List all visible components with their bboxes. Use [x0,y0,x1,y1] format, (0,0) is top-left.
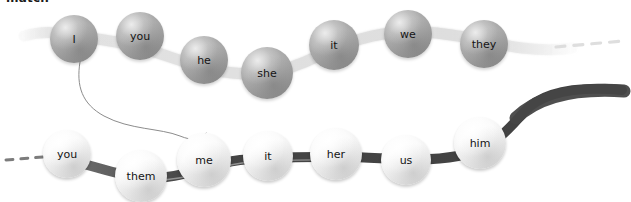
bubble-label: it [264,150,271,161]
bubble-label: he [197,54,211,65]
bubble-subject-you[interactable]: you [116,12,164,60]
bubble-object-you[interactable]: you [43,130,91,178]
bubble-label: you [130,30,150,41]
bubble-subject-we[interactable]: we [384,10,432,58]
bubble-label: you [57,148,77,159]
bubble-label: we [400,28,416,39]
bubble-object-her[interactable]: her [310,128,362,180]
object-ribbon-flare [516,90,624,118]
bubble-label: she [257,67,276,78]
page-title: match [6,0,49,5]
bubble-subject-they[interactable]: they [460,20,508,68]
bubble-label: him [470,137,491,148]
bubble-label: they [472,38,497,49]
bubble-object-me[interactable]: me [177,133,231,187]
bubble-subject-he[interactable]: he [180,36,228,84]
bubble-label: it [330,39,337,50]
bubble-label: us [400,154,413,165]
bubble-object-us[interactable]: us [381,135,431,185]
bubble-label: me [195,154,212,165]
bubble-label: I [72,33,75,44]
bubble-object-him[interactable]: him [454,117,506,169]
bubble-label: them [127,170,156,181]
bubble-label: her [327,148,345,159]
worksheet-canvas: match I you he she it we they you them m… [0,0,631,202]
bubble-subject-she[interactable]: she [241,47,293,99]
bubble-object-them[interactable]: them [115,150,167,202]
bubble-object-it[interactable]: it [243,131,293,181]
bubble-subject-it[interactable]: it [309,20,359,70]
object-ribbon-fade-dashes [6,157,44,160]
bubble-subject-i[interactable]: I [50,15,98,63]
